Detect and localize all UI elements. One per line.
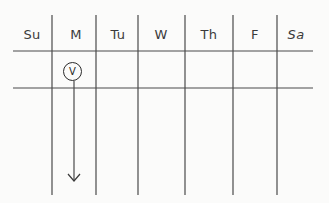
day-header-sunday: Su: [12, 27, 52, 42]
circled-v-marker: V: [63, 62, 82, 81]
weekly-calendar-diagram: Su M Tu W Th F Sa V: [0, 0, 329, 203]
day-header-monday: M: [56, 27, 96, 42]
day-header-tuesday: Tu: [98, 27, 138, 42]
day-header-friday: F: [235, 27, 275, 42]
day-header-wednesday: W: [141, 27, 181, 42]
day-header-saturday: Sa: [276, 27, 316, 42]
day-header-thursday: Th: [189, 27, 229, 42]
